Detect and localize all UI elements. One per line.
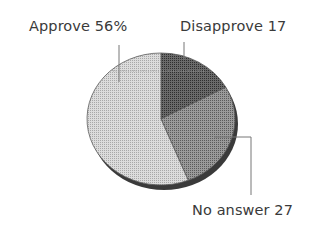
pie-slices (87, 53, 235, 185)
approve-label: Approve 56% (29, 18, 127, 34)
disapprove-label: Disapprove 17 (180, 18, 286, 34)
no-answer-label: No answer 27 (192, 202, 293, 218)
